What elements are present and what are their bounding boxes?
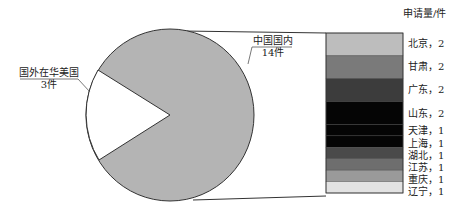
bar-label-gansu: 甘肃，2	[408, 61, 444, 73]
bar-segment-4	[326, 124, 403, 135]
bar-label-shanghai: 上海，1	[408, 138, 444, 150]
bar-of-pie-chart	[0, 0, 462, 211]
bar-unit-label: 申请量/件	[403, 8, 446, 20]
bar-label-chongqing: 重庆，1	[408, 174, 444, 186]
bar-label-shandong: 山东，2	[408, 108, 444, 120]
bar-label-beijing: 北京，2	[408, 38, 444, 50]
bar-segment-5	[326, 136, 403, 147]
bar-label-liaoning: 辽宁，1	[408, 186, 444, 198]
bar-segment-3	[326, 102, 403, 125]
stacked-bar	[326, 33, 403, 193]
connector-line-top	[183, 31, 326, 33]
pie-label-foreign-name: 国外在华美国	[18, 67, 80, 79]
pie-label-domestic-count: 14件	[251, 47, 295, 59]
bar-segment-6	[326, 147, 403, 158]
bar-segment-2	[326, 79, 403, 102]
bar-segment-9	[326, 182, 403, 193]
pie-label-domestic: 中国国内 14件	[251, 35, 295, 59]
pie-label-domestic-name: 中国国内	[251, 35, 295, 47]
connector-line-bottom	[193, 196, 326, 200]
pie-label-foreign-count: 3件	[18, 79, 80, 91]
bar-label-guangdong: 广东，2	[408, 84, 444, 96]
bar-label-tianjin: 天津，1	[408, 125, 444, 137]
bar-label-hubei: 湖北，1	[408, 150, 444, 162]
bar-segment-8	[326, 170, 403, 181]
bar-segment-7	[326, 159, 403, 170]
bar-label-jiangsu: 江苏，1	[408, 162, 444, 174]
pie-label-foreign: 国外在华美国 3件	[18, 67, 80, 91]
bar-segment-0	[326, 33, 403, 56]
pie	[86, 29, 254, 201]
bar-segment-1	[326, 56, 403, 79]
